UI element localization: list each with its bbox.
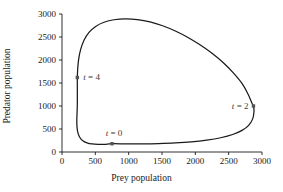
- annotation-label-t0: t = 0: [106, 129, 123, 138]
- plot-area: [0, 0, 283, 192]
- data-point-marker-t4: [76, 76, 79, 79]
- x-axis-title: Prey population: [0, 173, 283, 183]
- x-axis-tick-label: 2000: [186, 157, 204, 166]
- axis-spines: [62, 14, 262, 152]
- x-axis-tick-label: 500: [89, 157, 103, 166]
- annotation-equals: =: [86, 72, 96, 82]
- y-axis-tick-label: 0: [0, 148, 56, 157]
- annotation-equals: =: [108, 128, 118, 138]
- x-axis-tick-label: 1000: [120, 157, 138, 166]
- x-axis-tick-label: 2500: [220, 157, 238, 166]
- limit-cycle-curve: [77, 19, 254, 145]
- x-axis-tick-label: 3000: [253, 157, 271, 166]
- annotation-value: 0: [118, 128, 123, 138]
- annotation-value: 4: [95, 72, 100, 82]
- phase-portrait-figure: 0500100015002000250030000500100015002000…: [0, 0, 283, 192]
- annotation-value: 2: [244, 101, 249, 111]
- annotation-equals: =: [234, 101, 244, 111]
- annotation-label-t2: t = 2: [232, 102, 249, 111]
- y-axis-tick-label: 3000: [0, 10, 56, 19]
- data-point-marker-t0: [110, 142, 113, 145]
- x-axis-tick-label: 0: [60, 157, 65, 166]
- annotation-markers: [76, 76, 256, 146]
- y-axis-title: Predator population: [2, 26, 12, 146]
- data-point-marker-t2: [252, 104, 255, 107]
- x-axis-tick-label: 1500: [153, 157, 171, 166]
- annotation-label-t4: t = 4: [83, 73, 100, 82]
